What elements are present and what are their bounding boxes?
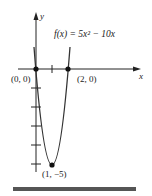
point-origin	[33, 66, 38, 71]
parabola-curve	[34, 47, 70, 165]
bottom-divider-bar	[13, 187, 136, 191]
point-vertex	[49, 162, 54, 167]
point-root-2	[65, 66, 70, 71]
x-axis-label: x	[138, 71, 143, 81]
y-axis-arrow-icon	[34, 12, 39, 20]
origin-label: (0, 0)	[11, 74, 31, 84]
y-axis-label: y	[39, 11, 44, 21]
parabola-chart: y x f(x) = 5x² − 10x (0, 0) (2, 0) (1, −…	[0, 0, 152, 196]
root2-label: (2, 0)	[77, 74, 97, 84]
function-label: f(x) = 5x² − 10x	[54, 29, 116, 40]
vertex-label: (1, −5)	[42, 169, 67, 179]
